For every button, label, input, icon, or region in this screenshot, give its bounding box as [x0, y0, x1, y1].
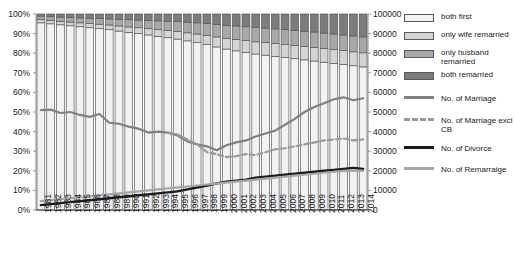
y-axis-left-tick-label: 90%: [0, 30, 30, 39]
y-axis-left-tick-label: 10%: [0, 186, 30, 195]
bar-segment: [66, 22, 74, 26]
legend-item[interactable]: No. of Remarraige: [404, 165, 514, 174]
bar-segment: [183, 22, 191, 33]
bar-segment: [66, 18, 74, 23]
bar-segment: [57, 25, 65, 210]
legend-item[interactable]: both remarried: [404, 70, 514, 80]
bar-segment: [242, 14, 250, 27]
bar-segment: [154, 36, 162, 210]
x-axis-tick-label: 1981: [44, 194, 53, 213]
bar-segment: [223, 38, 231, 49]
bar-segment: [174, 39, 182, 210]
bar-segment: [310, 14, 318, 32]
bar-segment: [76, 14, 84, 18]
bar-segment: [125, 32, 133, 210]
bar-segment: [232, 51, 240, 210]
x-axis-tick-label: 1987: [103, 194, 112, 213]
bar-segment: [340, 35, 348, 51]
y-axis-left-tick-label: 60%: [0, 88, 30, 97]
x-axis-tick-label: 2002: [249, 194, 258, 213]
bar-segment: [262, 43, 270, 56]
legend-item[interactable]: No. of Divorce: [404, 144, 514, 153]
bar-segment: [57, 21, 65, 25]
x-axis-tick-label: 2014: [367, 194, 376, 213]
legend-label: only husband remarried: [438, 48, 514, 66]
bar-segment: [154, 21, 162, 30]
y-axis-left-tick-label: 30%: [0, 147, 30, 156]
bar-segment: [144, 29, 152, 35]
bar-segment: [330, 34, 338, 50]
bar-segment: [66, 26, 74, 210]
y-axis-left-tick-label: 20%: [0, 167, 30, 176]
bar-segment: [174, 14, 182, 22]
x-axis-tick-label: 1995: [181, 194, 190, 213]
legend-label: No. of Divorce: [438, 144, 492, 153]
bar-segment: [135, 34, 143, 210]
legend-item[interactable]: both first: [404, 12, 514, 22]
bar-segment: [76, 18, 84, 23]
bar-segment: [271, 29, 279, 44]
bar-segment: [232, 14, 240, 26]
bar-segment: [144, 14, 152, 20]
x-axis-tick-label: 1986: [93, 194, 102, 213]
bar-segment: [310, 32, 318, 47]
x-axis-tick-label: 1998: [210, 194, 219, 213]
legend-swatch: [404, 30, 438, 40]
bar-segment: [183, 33, 191, 41]
bar-segment: [320, 14, 328, 33]
bar-segment: [271, 56, 279, 210]
legend-line-icon: [404, 96, 434, 99]
bar-segment: [271, 14, 279, 29]
bar-segment: [125, 14, 133, 20]
bar-segment: [223, 25, 231, 38]
bar-segment: [135, 28, 143, 34]
chart-legend: both firstonly wife remarriedonly husban…: [404, 12, 514, 176]
chart-container: 0%10%20%30%40%50%60%70%80%90%100% 010000…: [0, 0, 515, 256]
bar-segment: [47, 14, 55, 17]
bar-segment: [96, 29, 104, 210]
bar-segment: [203, 24, 211, 36]
bar-segment: [252, 54, 260, 210]
bar-segment: [330, 50, 338, 64]
legend-item[interactable]: only wife remarried: [404, 30, 514, 40]
bar-segment: [193, 23, 201, 34]
legend-item[interactable]: No. of Marriage: [404, 94, 514, 103]
x-axis-tick-label: 2004: [269, 194, 278, 213]
bar-segment: [193, 34, 201, 43]
legend-swatch: [404, 94, 438, 99]
x-axis-tick-label: 2007: [298, 194, 307, 213]
legend-dashed-line-icon: [404, 118, 434, 121]
bar-segment: [125, 27, 133, 32]
y-axis-left-tick-label: 40%: [0, 128, 30, 137]
legend-swatch: [404, 144, 438, 149]
bar-segment: [320, 62, 328, 210]
y-axis-right-tick-label: 10000: [373, 186, 397, 195]
bar-segment: [310, 61, 318, 210]
legend-label: No. of Remarraige: [438, 165, 506, 174]
y-axis-left-tick-label: 80%: [0, 49, 30, 58]
y-axis-left-tick-label: 100%: [0, 10, 30, 19]
x-axis-tick-label: 2000: [230, 194, 239, 213]
legend-swatch: [404, 165, 438, 170]
bar-segment: [115, 14, 123, 19]
bar-segment: [213, 25, 221, 37]
bar-segment: [213, 14, 221, 25]
legend-label: only wife remarried: [438, 30, 509, 39]
bar-segment: [301, 60, 309, 210]
bar-segment: [96, 24, 104, 29]
bar-segment: [164, 31, 172, 38]
bar-segment: [37, 23, 45, 210]
bar-segment: [37, 16, 45, 20]
bar-segment: [291, 46, 299, 59]
bar-segment: [86, 28, 94, 210]
x-axis-tick-label: 2012: [347, 194, 356, 213]
y-axis-left-tick-label: 0%: [0, 206, 30, 215]
bar-segment: [164, 21, 172, 30]
legend-item[interactable]: only husband remarried: [404, 48, 514, 66]
legend-item[interactable]: No. of Marriage excl CB: [404, 116, 514, 134]
y-axis-right-tick-label: 40000: [373, 128, 397, 137]
bar-segment: [291, 59, 299, 210]
bar-segment: [281, 30, 289, 45]
bar-segment: [281, 45, 289, 58]
legend-label: both remarried: [438, 70, 493, 79]
